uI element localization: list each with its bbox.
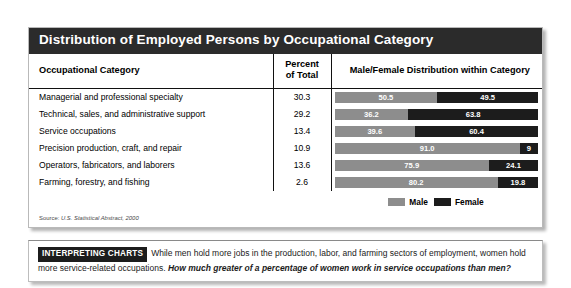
- stacked-bar: 80.219.8: [335, 177, 539, 188]
- bar-segment-male: 36.2: [335, 109, 409, 120]
- row-percent-of-total: 10.9: [273, 140, 331, 157]
- legend-label-male: Male: [409, 197, 428, 207]
- table-body: Managerial and professional specialty30.…: [29, 88, 542, 191]
- row-percent-of-total: 13.6: [273, 157, 331, 174]
- column-header-distribution: Male/Female Distribution within Category: [331, 54, 542, 89]
- row-bar-cell: 91.09: [331, 140, 542, 157]
- legend-item-male: Male: [388, 197, 428, 207]
- table-header-row: Occupational Category Percent of Total M…: [29, 54, 542, 89]
- bar-segment-female: 9: [520, 143, 538, 154]
- interpreting-charts-badge: INTERPRETING CHARTS: [38, 247, 147, 262]
- stacked-bar: 75.924.1: [335, 160, 539, 171]
- bar-segment-female: 49.5: [437, 92, 538, 103]
- column-header-percent-line2: of Total: [286, 70, 319, 80]
- bar-segment-male: 39.6: [335, 126, 416, 137]
- bar-segment-male: 50.5: [335, 92, 438, 103]
- table-row: Operators, fabricators, and laborers13.6…: [29, 157, 542, 174]
- table-row: Precision production, craft, and repair1…: [29, 140, 542, 157]
- column-header-category: Occupational Category: [29, 54, 273, 89]
- bar-segment-female: 24.1: [489, 160, 538, 171]
- bar-segment-male: 75.9: [335, 160, 489, 171]
- row-bar-cell: 80.219.8: [331, 174, 542, 191]
- interpreting-charts-text: INTERPRETING CHARTSWhile men hold more j…: [38, 247, 533, 274]
- row-bar-cell: 50.549.5: [331, 88, 542, 106]
- occupation-table: Occupational Category Percent of Total M…: [29, 54, 542, 211]
- row-percent-of-total: 29.2: [273, 106, 331, 123]
- bar-segment-female: 60.4: [415, 126, 538, 137]
- row-bar-cell: 36.263.8: [331, 106, 542, 123]
- bar-segment-female: 19.8: [498, 177, 538, 188]
- legend-swatch-female-icon: [434, 198, 451, 206]
- row-percent-of-total: 13.4: [273, 123, 331, 140]
- legend-label-female: Female: [455, 197, 484, 207]
- source-note: Source: U.S. Statistical Abstract, 2000: [29, 211, 542, 227]
- legend-swatch-male-icon: [388, 198, 405, 206]
- row-percent-of-total: 30.3: [273, 88, 331, 106]
- chart-legend: Male Female: [331, 191, 542, 211]
- stacked-bar: 50.549.5: [335, 92, 539, 103]
- row-category-label: Service occupations: [29, 123, 273, 140]
- table-row: Farming, forestry, and fishing2.680.219.…: [29, 174, 542, 191]
- row-category-label: Farming, forestry, and fishing: [29, 174, 273, 191]
- table-row: Managerial and professional specialty30.…: [29, 88, 542, 106]
- stacked-bar: 39.660.4: [335, 126, 539, 137]
- interpreting-charts-question: How much greater of a percentage of wome…: [168, 263, 511, 273]
- bar-segment-male: 80.2: [335, 177, 498, 188]
- column-header-percent-line1: Percent: [285, 59, 319, 69]
- page-root: Distribution of Employed Persons by Occu…: [0, 0, 571, 288]
- row-bar-cell: 39.660.4: [331, 123, 542, 140]
- stacked-bar: 91.09: [335, 143, 539, 154]
- row-bar-cell: 75.924.1: [331, 157, 542, 174]
- chart-panel: Distribution of Employed Persons by Occu…: [28, 27, 543, 228]
- legend-row: Male Female: [29, 191, 542, 211]
- stacked-bar: 36.263.8: [335, 109, 539, 120]
- bar-segment-male: 91.0: [335, 143, 520, 154]
- legend-item-female: Female: [434, 197, 484, 207]
- row-category-label: Managerial and professional specialty: [29, 88, 273, 106]
- interpreting-charts-box: INTERPRETING CHARTSWhile men hold more j…: [28, 240, 543, 282]
- table-row: Technical, sales, and administrative sup…: [29, 106, 542, 123]
- bar-segment-female: 63.8: [408, 109, 538, 120]
- column-header-percent: Percent of Total: [273, 54, 331, 89]
- row-category-label: Technical, sales, and administrative sup…: [29, 106, 273, 123]
- table-row: Service occupations13.439.660.4: [29, 123, 542, 140]
- source-text: U.S. Statistical Abstract, 2000: [61, 215, 139, 221]
- row-percent-of-total: 2.6: [273, 174, 331, 191]
- row-category-label: Operators, fabricators, and laborers: [29, 157, 273, 174]
- page-title: Distribution of Employed Persons by Occu…: [29, 28, 542, 54]
- source-label: Source:: [39, 215, 59, 221]
- row-category-label: Precision production, craft, and repair: [29, 140, 273, 157]
